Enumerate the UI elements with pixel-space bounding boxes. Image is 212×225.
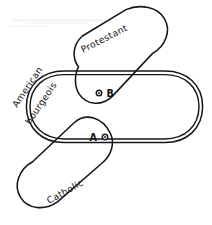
set-shape-protestant — [74, 7, 167, 104]
bullseye-marker-b — [96, 90, 103, 97]
set-shape-american-bourgeois — [26, 71, 202, 143]
data-point-a-label: A — [90, 132, 98, 143]
diagram-canvas: Protestant American bourgeois Catholic B — [0, 0, 212, 225]
data-point-a[interactable]: A — [90, 132, 109, 143]
data-point-b-label: B — [107, 88, 114, 99]
label-american-bourgeois: American bourgeois — [10, 64, 59, 126]
data-point-b[interactable]: B — [96, 88, 114, 99]
scan-artifact — [9, 20, 105, 27]
bullseye-marker-a — [102, 134, 109, 141]
set-label-catholic-text: Catholic — [45, 177, 85, 206]
euler-diagram: Protestant American bourgeois Catholic B — [0, 0, 212, 225]
set-label-protestant-text: Protestant — [79, 22, 129, 55]
label-catholic: Catholic — [45, 177, 85, 206]
label-protestant: Protestant — [79, 22, 129, 55]
